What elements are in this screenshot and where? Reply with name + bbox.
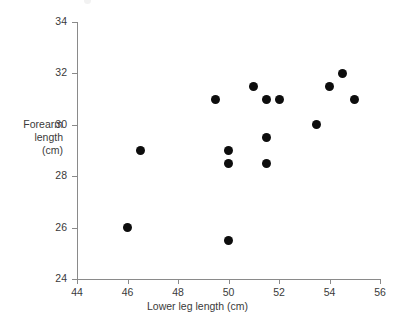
y-axis-title-line-3: (cm)	[0, 144, 63, 157]
x-tick-label: 44	[62, 287, 92, 298]
data-point	[224, 159, 233, 168]
x-tick-label: 56	[365, 287, 395, 298]
x-tick-label: 52	[264, 287, 294, 298]
y-tick	[72, 176, 77, 177]
y-tick	[72, 22, 77, 23]
x-tick-label: 46	[113, 287, 143, 298]
data-point	[262, 133, 271, 142]
x-tick	[330, 279, 331, 284]
y-tick	[72, 73, 77, 74]
x-tick	[77, 279, 78, 284]
data-point	[211, 95, 220, 104]
clipped-mark	[84, 0, 91, 4]
x-tick	[128, 279, 129, 284]
data-point	[262, 95, 271, 104]
x-tick-label: 50	[214, 287, 244, 298]
data-point	[249, 82, 258, 91]
x-tick-label: 54	[315, 287, 345, 298]
data-point	[136, 146, 145, 155]
x-tick	[229, 279, 230, 284]
y-tick	[72, 228, 77, 229]
y-tick-label: 24	[0, 273, 67, 284]
x-axis-title: Lower leg length (cm)	[0, 300, 395, 312]
scatter-plot: 242628303234 44464850525456 Forearm leng…	[0, 0, 395, 325]
data-point	[224, 236, 233, 245]
x-tick	[380, 279, 381, 284]
x-tick	[178, 279, 179, 284]
y-tick-label: 32	[0, 67, 67, 78]
data-point	[224, 146, 233, 155]
y-axis-title: Forearm length (cm)	[0, 118, 63, 157]
y-tick-label: 34	[0, 16, 67, 27]
y-tick-label: 26	[0, 222, 67, 233]
y-axis-title-line-1: Forearm	[0, 118, 63, 131]
data-point	[338, 69, 347, 78]
x-tick	[279, 279, 280, 284]
y-tick	[72, 125, 77, 126]
y-axis-title-line-2: length	[0, 131, 63, 144]
data-point	[325, 82, 334, 91]
x-tick-label: 48	[163, 287, 193, 298]
data-point	[262, 159, 271, 168]
y-tick-label: 28	[0, 170, 67, 181]
data-point	[275, 95, 284, 104]
data-point	[350, 95, 359, 104]
